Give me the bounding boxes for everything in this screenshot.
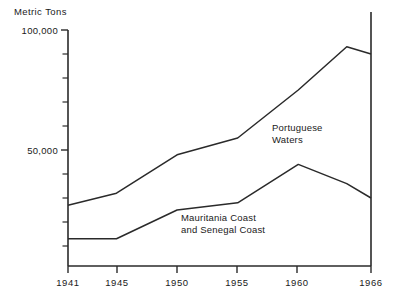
x-tick-label-1955: 1955 [213, 277, 261, 288]
x-tick-label-1966: 1966 [347, 277, 395, 288]
series-label-portuguese-line1: Portuguese [272, 122, 323, 134]
chart-figure: Metric Tons 100,000 50,000 1941 1945 195… [0, 0, 395, 300]
x-tick-label-1950: 1950 [153, 277, 201, 288]
x-tick-label-1945: 1945 [93, 277, 141, 288]
x-tick-label-1941: 1941 [44, 277, 92, 288]
series-label-mauritania-senegal: Mauritania Coast and Senegal Coast [181, 212, 265, 236]
x-tick-label-1960: 1960 [273, 277, 321, 288]
series-label-mauritania-line2: and Senegal Coast [181, 224, 265, 236]
y-tick-label-100000: 100,000 [0, 25, 58, 36]
y-tick-label-50000: 50,000 [0, 145, 58, 156]
series-line-portuguese-waters [68, 47, 371, 205]
y-axis-title: Metric Tons [14, 6, 67, 17]
series-label-mauritania-line1: Mauritania Coast [181, 212, 265, 224]
series-label-portuguese-waters: Portuguese Waters [272, 122, 323, 146]
series-label-portuguese-line2: Waters [272, 134, 323, 146]
line-chart-canvas [0, 0, 395, 300]
